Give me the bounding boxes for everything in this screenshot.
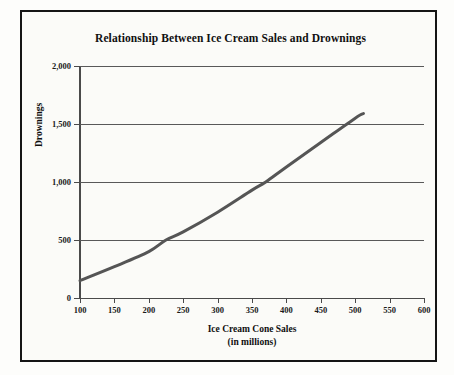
y-tick-label-2000: 2,000 — [52, 61, 71, 71]
chart-frame-border: Relationship Between Ice Cream Sales and… — [20, 10, 437, 362]
data-curve — [80, 66, 424, 299]
plot-area: 05001,0001,5002,000 10015020025030035040… — [80, 66, 424, 298]
x-tick-label-350: 350 — [246, 305, 259, 315]
x-tick-mark-600 — [424, 298, 425, 303]
y-axis-title: Drownings — [34, 103, 44, 147]
x-tick-label-150: 150 — [108, 305, 121, 315]
chart-title: Relationship Between Ice Cream Sales and… — [22, 32, 439, 44]
x-tick-label-300: 300 — [211, 305, 224, 315]
y-tick-label-1500: 1,500 — [52, 119, 71, 129]
x-axis-title-main: Ice Cream Cone Sales — [80, 323, 424, 336]
x-axis-title-sub: (in millions) — [80, 336, 424, 349]
y-tick-label-500: 500 — [58, 235, 71, 245]
series-line-drownings — [80, 114, 363, 281]
x-tick-label-200: 200 — [142, 305, 155, 315]
x-tick-label-250: 250 — [177, 305, 190, 315]
y-tick-label-1000: 1,000 — [52, 177, 71, 187]
x-tick-label-100: 100 — [74, 305, 87, 315]
x-tick-label-400: 400 — [280, 305, 293, 315]
x-tick-label-550: 550 — [383, 305, 396, 315]
chart-figure: Relationship Between Ice Cream Sales and… — [0, 0, 454, 375]
y-tick-label-0: 0 — [67, 293, 71, 303]
x-axis-title: Ice Cream Cone Sales (in millions) — [80, 323, 424, 348]
x-tick-label-450: 450 — [314, 305, 327, 315]
x-tick-label-500: 500 — [349, 305, 362, 315]
x-tick-label-600: 600 — [418, 305, 431, 315]
